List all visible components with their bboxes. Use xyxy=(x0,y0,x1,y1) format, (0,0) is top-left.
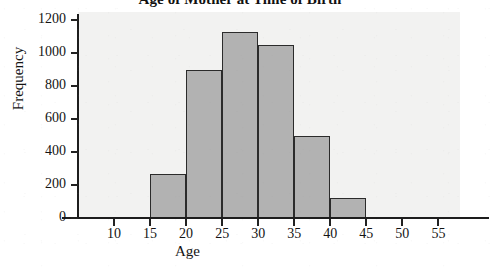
x-axis-line xyxy=(62,217,489,219)
x-axis-tick xyxy=(185,219,187,226)
y-axis-line xyxy=(77,14,79,219)
y-axis-tick xyxy=(71,85,78,87)
y-axis-tick-label: 1200 xyxy=(22,11,66,27)
x-axis-tick-label: 35 xyxy=(279,226,309,242)
x-axis-tick xyxy=(293,219,295,226)
y-axis-tick xyxy=(71,19,78,21)
x-axis-tick-label: 55 xyxy=(423,226,453,242)
x-axis-label: Age xyxy=(175,243,200,260)
x-axis-tick-label: 40 xyxy=(315,226,345,242)
x-axis-tick xyxy=(365,219,367,226)
y-axis-tick xyxy=(71,151,78,153)
x-axis-tick-label: 30 xyxy=(243,226,273,242)
plot-area xyxy=(78,12,460,218)
page-title: Age of Mother at Time of Birth xyxy=(0,0,480,8)
x-axis-tick xyxy=(437,219,439,226)
histogram-bar xyxy=(186,70,222,218)
x-axis-tick-label: 15 xyxy=(135,226,165,242)
y-axis-tick-label: 0 xyxy=(22,209,66,225)
y-axis-tick xyxy=(71,118,78,120)
x-axis-tick xyxy=(149,219,151,226)
histogram-bar xyxy=(222,32,258,218)
x-axis-tick-label: 10 xyxy=(99,226,129,242)
x-axis-tick-label: 25 xyxy=(207,226,237,242)
x-axis-tick xyxy=(221,219,223,226)
y-axis-tick-label: 800 xyxy=(22,77,66,93)
x-axis-tick-label: 50 xyxy=(387,226,417,242)
y-axis-tick-label: 200 xyxy=(22,176,66,192)
y-axis-tick-label: 400 xyxy=(22,143,66,159)
y-axis-tick xyxy=(71,184,78,186)
x-axis-tick xyxy=(113,219,115,226)
x-axis-tick-label: 45 xyxy=(351,226,381,242)
histogram-bar xyxy=(330,198,366,218)
y-axis-tick xyxy=(71,217,78,219)
y-axis-tick-label: 1000 xyxy=(22,44,66,60)
x-axis-tick xyxy=(257,219,259,226)
y-axis-tick xyxy=(71,52,78,54)
y-axis-tick-label: 600 xyxy=(22,110,66,126)
histogram-bar xyxy=(258,45,294,218)
histogram-bar xyxy=(294,136,330,218)
histogram-figure: Age of Mother at Time of Birth Frequency… xyxy=(0,0,492,269)
histogram-bar xyxy=(150,174,186,218)
x-axis-tick xyxy=(401,219,403,226)
x-axis-tick-label: 20 xyxy=(171,226,201,242)
x-axis-tick xyxy=(329,219,331,226)
